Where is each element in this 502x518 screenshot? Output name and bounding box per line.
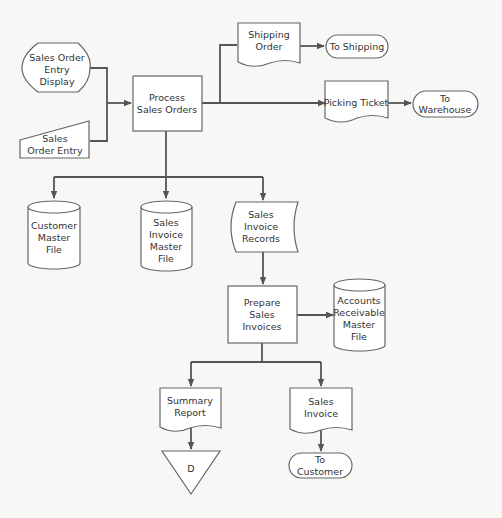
- node-sales-invoice: Sales Invoice: [290, 388, 352, 433]
- svg-text:Customer: Customer: [297, 466, 343, 477]
- svg-text:Entry: Entry: [44, 64, 70, 75]
- svg-text:Sales: Sales: [308, 396, 333, 407]
- svg-text:Records: Records: [242, 233, 280, 244]
- svg-text:Report: Report: [174, 407, 206, 418]
- svg-text:Master: Master: [38, 232, 71, 243]
- svg-text:Prepare: Prepare: [244, 297, 281, 308]
- svg-text:File: File: [46, 244, 62, 255]
- svg-text:Sales Order: Sales Order: [29, 52, 84, 63]
- node-offline-storage-d: D: [162, 451, 220, 494]
- svg-text:Warehouse: Warehouse: [419, 104, 472, 115]
- node-summary-report: Summary Report: [160, 388, 221, 431]
- svg-text:Summary: Summary: [167, 395, 213, 406]
- node-sales-order-entry-display: Sales Order Entry Display: [22, 43, 90, 92]
- edge-to-shipping-order: [220, 45, 237, 103]
- svg-text:Customer: Customer: [31, 220, 77, 231]
- svg-text:Accounts: Accounts: [337, 295, 380, 306]
- node-process-sales-orders: Process Sales Orders: [133, 76, 202, 131]
- node-shipping-order: Shipping Order: [238, 23, 300, 66]
- svg-text:Sales: Sales: [249, 309, 274, 320]
- node-sales-order-entry: Sales Order Entry: [20, 121, 89, 158]
- svg-text:Invoice: Invoice: [149, 229, 183, 240]
- svg-text:Sales: Sales: [153, 217, 178, 228]
- svg-text:Master: Master: [343, 319, 376, 330]
- svg-text:Process: Process: [149, 92, 185, 103]
- svg-text:Master: Master: [150, 241, 183, 252]
- node-sales-invoice-master-file: Sales Invoice Master File: [141, 201, 192, 271]
- svg-text:Invoice: Invoice: [304, 408, 338, 419]
- svg-text:Invoices: Invoices: [243, 321, 282, 332]
- svg-text:File: File: [351, 331, 367, 342]
- svg-text:Picking Ticket: Picking Ticket: [324, 97, 389, 108]
- node-to-customer: To Customer: [289, 453, 352, 478]
- flowchart-canvas: Sales Order Entry Display Sales Order En…: [0, 0, 502, 518]
- svg-text:Order Entry: Order Entry: [27, 145, 83, 156]
- svg-text:Order: Order: [256, 41, 283, 52]
- svg-text:To: To: [314, 454, 325, 465]
- svg-text:To Shipping: To Shipping: [329, 41, 384, 52]
- node-prepare-sales-invoices: Prepare Sales Invoices: [228, 286, 297, 343]
- node-accounts-receivable-master-file: Accounts Receivable Master File: [333, 279, 385, 351]
- svg-text:Shipping: Shipping: [248, 29, 289, 40]
- node-to-warehouse: To Warehouse: [413, 91, 478, 117]
- svg-text:Sales Orders: Sales Orders: [137, 104, 197, 115]
- node-picking-ticket: Picking Ticket: [324, 81, 389, 122]
- svg-text:D: D: [187, 463, 194, 474]
- svg-text:Sales: Sales: [42, 133, 67, 144]
- svg-text:Invoice: Invoice: [244, 221, 278, 232]
- node-customer-master-file: Customer Master File: [28, 201, 80, 269]
- edge-inputs-merge: [90, 68, 107, 141]
- svg-text:To: To: [439, 93, 450, 104]
- node-sales-invoice-records: Sales Invoice Records: [231, 202, 298, 252]
- svg-text:Sales: Sales: [248, 209, 273, 220]
- node-to-shipping: To Shipping: [326, 35, 388, 58]
- svg-text:Receivable: Receivable: [333, 307, 385, 318]
- svg-text:File: File: [158, 253, 174, 264]
- svg-text:Display: Display: [39, 76, 74, 87]
